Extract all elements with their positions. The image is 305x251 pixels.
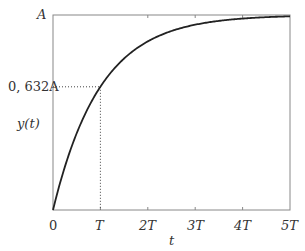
plot-frame <box>53 15 290 210</box>
x-axis-label: t <box>169 233 175 248</box>
x-tick-label-3T: 3T <box>187 218 205 233</box>
y-axis-label: y(t) <box>16 116 40 131</box>
x-tick-label-T: T <box>95 218 105 233</box>
y-tick-label-0632A: 0, 632A <box>8 79 59 94</box>
response-curve <box>53 16 290 210</box>
x-tick-label-4T: 4T <box>233 218 252 233</box>
x-tick-label-5T: 5T <box>281 218 299 233</box>
x-tick-label-0: 0 <box>49 218 57 233</box>
x-tick-label-2T: 2T <box>138 218 157 233</box>
x-ticks <box>100 15 242 210</box>
y-tick-label-A: A <box>36 7 46 22</box>
step-response-chart: A 0, 632A y(t) 0 T 2T 3T 4T 5T t <box>0 0 305 251</box>
